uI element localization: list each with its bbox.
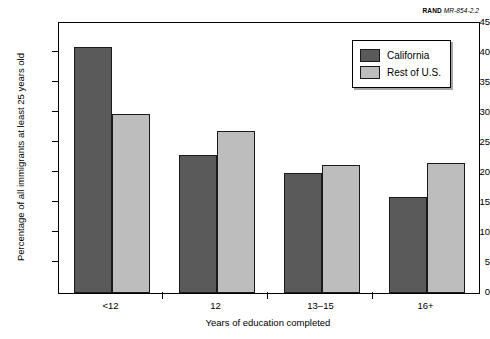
source-credit: RAND MR-854-2.2: [423, 7, 479, 14]
x-axis-tick: [162, 292, 163, 299]
legend-swatch-icon: [360, 66, 380, 79]
legend-item-label: California: [387, 50, 429, 61]
bar-rest-of-u-s-2: [322, 165, 360, 293]
legend-item: Rest of U.S.: [360, 64, 441, 81]
x-axis-category-label: 16+: [386, 300, 466, 311]
bar-rest-of-u-s-3: [427, 163, 465, 293]
bar-california-0: [74, 47, 112, 293]
bar-california-3: [389, 197, 427, 293]
legend-item-label: Rest of U.S.: [387, 67, 441, 78]
legend-swatch-icon: [360, 49, 380, 62]
x-axis-category-label: <12: [71, 300, 151, 311]
chart-legend: CaliforniaRest of U.S.: [352, 40, 451, 88]
legend-item: California: [360, 47, 441, 64]
bar-rest-of-u-s-0: [112, 114, 150, 293]
x-axis-category-label: 13–15: [281, 300, 361, 311]
x-axis-title: Years of education completed: [58, 317, 478, 328]
bar-rest-of-u-s-1: [217, 131, 255, 293]
source-credit-document: MR-854-2.2: [444, 7, 479, 14]
source-credit-mark: RAND: [423, 7, 442, 14]
x-axis-tick: [267, 292, 268, 299]
y-axis-title: Percentage of all immigrants at least 25…: [14, 22, 28, 292]
bar-california-1: [179, 155, 217, 293]
x-axis-category-label: 12: [176, 300, 256, 311]
chart-figure: RAND MR-854-2.2 Percentage of all immigr…: [0, 0, 490, 339]
bar-california-2: [284, 173, 322, 293]
x-axis-tick: [372, 292, 373, 299]
